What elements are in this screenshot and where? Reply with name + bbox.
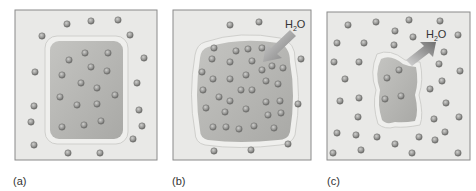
solute-particle [439, 78, 445, 84]
solute-particle [392, 28, 398, 34]
solute-particle [442, 129, 448, 135]
solute-particle [74, 102, 80, 108]
solute-particle [65, 150, 71, 156]
solute-particle [334, 130, 340, 136]
solute-particle [31, 142, 37, 148]
panel-b: H2O [173, 10, 311, 160]
solute-particle [59, 72, 65, 78]
solute-particle [238, 87, 244, 93]
solute-particle [243, 106, 249, 112]
solute-particle [134, 80, 140, 86]
solute-particle [391, 42, 397, 48]
solute-particle [409, 150, 415, 156]
solute-particle [136, 107, 142, 113]
solute-particle [295, 101, 301, 107]
solute-particle [356, 95, 362, 101]
solute-particle [285, 141, 291, 147]
solute-particle [427, 86, 433, 92]
solute-particle [233, 48, 239, 54]
solute-particle [384, 75, 390, 81]
solute-particle [210, 124, 216, 130]
solute-particle [249, 87, 255, 93]
panel-a [15, 10, 157, 160]
solute-particle [200, 87, 206, 93]
solute-particle [443, 100, 449, 106]
solute-particle [251, 123, 257, 129]
solute-particle [265, 112, 271, 118]
solute-particle [227, 22, 233, 28]
solute-particle [223, 124, 229, 130]
solute-particle [374, 134, 380, 140]
solute-particle [97, 150, 103, 156]
panel-c: H2O [327, 12, 470, 160]
solute-particle [94, 85, 100, 91]
solute-particle [373, 19, 379, 25]
solute-particle [269, 63, 275, 69]
solute-particle [211, 45, 217, 51]
solute-particle [227, 59, 233, 65]
solute-particle [203, 105, 209, 111]
solute-particle [278, 110, 284, 116]
solute-particle [249, 58, 255, 64]
solute-particle [227, 98, 233, 104]
solute-particle [431, 116, 437, 122]
solute-particle [104, 68, 110, 74]
solute-particle [406, 17, 412, 23]
solute-particle [432, 137, 438, 143]
solute-particle [382, 96, 388, 102]
solute-particle [275, 81, 281, 87]
solute-particle [330, 150, 336, 156]
solute-particle [227, 76, 233, 82]
solute-particle [209, 56, 215, 62]
solute-particle [59, 124, 65, 130]
osmosis-diagram: H2O H2O [0, 0, 476, 191]
solute-particle [88, 64, 94, 70]
solute-particle [39, 33, 45, 39]
solute-particle [259, 67, 265, 73]
solute-particle [416, 134, 422, 140]
solute-particle [355, 114, 361, 120]
solute-particle [356, 59, 362, 65]
solute-particle [115, 17, 121, 23]
solute-particle [398, 93, 404, 99]
solute-particle [139, 123, 145, 129]
solute-particle [263, 78, 269, 84]
solute-particle [105, 50, 111, 56]
solute-particle [259, 45, 265, 51]
solute-particle [271, 125, 277, 131]
solute-particle [277, 98, 283, 104]
solute-particle [334, 40, 340, 46]
solute-particle [345, 22, 351, 28]
solute-particle [243, 72, 249, 78]
solute-particle [211, 148, 217, 154]
solute-particle [78, 80, 84, 86]
solute-particle [222, 109, 228, 115]
solute-particle [396, 67, 402, 73]
solute-particle [263, 99, 269, 105]
solute-particle [112, 92, 118, 98]
solute-particle [392, 141, 398, 147]
solute-particle [437, 18, 443, 24]
solute-particle [210, 76, 216, 82]
solute-particle [342, 76, 348, 82]
solute-particle [358, 147, 364, 153]
solute-particle [216, 94, 222, 100]
solute-particle [337, 98, 343, 104]
solute-particle [81, 122, 87, 128]
solute-particle [245, 46, 251, 52]
solute-particle [248, 147, 254, 153]
solute-particle [28, 119, 34, 125]
solute-particle [88, 18, 94, 24]
solute-particle [130, 136, 136, 142]
solute-particle [127, 32, 133, 38]
solute-particle [236, 126, 242, 132]
solute-particle [82, 50, 88, 56]
solute-particle [32, 69, 38, 75]
solute-particle [410, 34, 416, 40]
panel-a-label: (a) [13, 175, 26, 187]
solute-particle [456, 114, 462, 120]
solute-particle [298, 56, 304, 62]
solute-particle [331, 59, 337, 65]
solute-particle [280, 65, 286, 71]
solute-particle [353, 132, 359, 138]
